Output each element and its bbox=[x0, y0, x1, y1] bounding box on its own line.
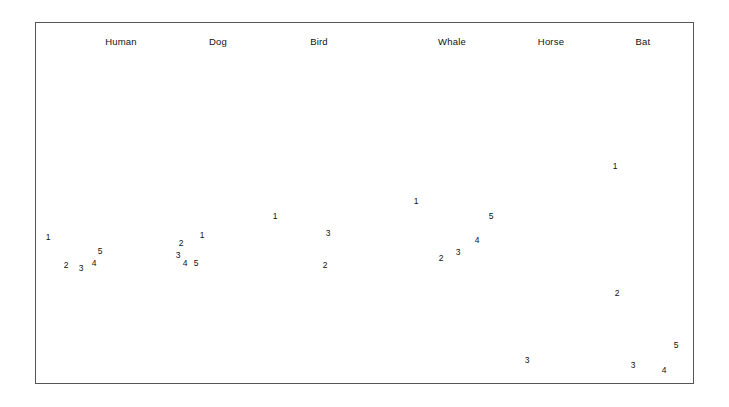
digit-label-whale-4: 4 bbox=[475, 235, 480, 245]
digit-label-bat-1: 1 bbox=[613, 161, 618, 171]
digit-label-dog-3: 3 bbox=[176, 250, 181, 260]
species-label-whale: Whale bbox=[438, 36, 466, 47]
species-label-bird: Bird bbox=[310, 36, 328, 47]
digit-label-whale-2: 2 bbox=[439, 253, 444, 263]
digit-label-whale-1: 1 bbox=[414, 196, 419, 206]
species-label-dog: Dog bbox=[209, 36, 227, 47]
digit-label-dog-1: 1 bbox=[200, 230, 205, 240]
digit-label-human-1: 1 bbox=[46, 232, 51, 242]
digit-label-bird-1: 1 bbox=[273, 211, 278, 221]
digit-label-dog-2: 2 bbox=[179, 238, 184, 248]
digit-label-whale-3: 3 bbox=[456, 247, 461, 257]
species-label-human: Human bbox=[105, 36, 137, 47]
digit-label-dog-4: 4 bbox=[183, 258, 188, 268]
digit-label-human-4: 4 bbox=[92, 258, 97, 268]
digit-label-bat-3: 3 bbox=[631, 360, 636, 370]
digit-label-bird-3: 3 bbox=[326, 228, 331, 238]
digit-label-whale-5: 5 bbox=[489, 211, 494, 221]
digit-label-human-5: 5 bbox=[98, 246, 103, 256]
species-label-horse: Horse bbox=[538, 36, 564, 47]
digit-label-human-3: 3 bbox=[79, 263, 84, 273]
digit-label-bat-2: 2 bbox=[615, 288, 620, 298]
species-label-bat: Bat bbox=[636, 36, 651, 47]
digit-label-human-2: 2 bbox=[64, 260, 69, 270]
digit-label-dog-5: 5 bbox=[194, 258, 199, 268]
digit-label-bat-5: 5 bbox=[674, 340, 679, 350]
digit-label-bird-2: 2 bbox=[323, 260, 328, 270]
digit-label-bat-4: 4 bbox=[662, 365, 667, 375]
figure-border-frame bbox=[35, 22, 694, 384]
digit-label-horse-3: 3 bbox=[525, 355, 530, 365]
